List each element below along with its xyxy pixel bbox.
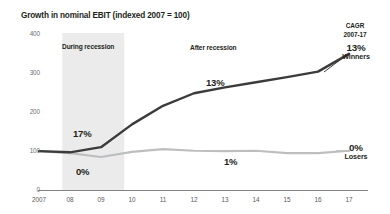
label-after-recession: After recession (190, 44, 237, 51)
y-tick-300: 300 (18, 69, 40, 76)
cagr-header-line2: 2007-17 (330, 31, 380, 38)
label-during-recession: During recession (62, 43, 114, 50)
annotation-winners-post-recession-growth: 13% (206, 77, 224, 88)
winners-series-name: Winners (330, 52, 382, 61)
x-tick-08: 08 (57, 196, 83, 203)
x-tick-10: 10 (119, 196, 145, 203)
x-tick-16: 16 (305, 196, 331, 203)
y-tick-0: 0 (18, 186, 40, 193)
x-tick-14: 14 (243, 196, 269, 203)
x-tick-13: 13 (212, 196, 238, 203)
series-endlabel-winners: 13% Winners (330, 42, 382, 61)
x-tick-12: 12 (181, 196, 207, 203)
x-tick-17: 17 (336, 196, 362, 203)
annotation-losers-post-recession-growth: 1% (224, 156, 237, 167)
series-endlabel-losers: 0% Losers (330, 142, 382, 161)
x-tick-11: 11 (150, 196, 176, 203)
y-tick-400: 400 (18, 30, 40, 37)
x-tick-2007: 2007 (26, 196, 52, 203)
annotation-losers-recession-growth: 0% (76, 166, 89, 177)
y-tick-200: 200 (18, 108, 40, 115)
y-tick-100: 100 (18, 147, 40, 154)
x-tick-09: 09 (88, 196, 114, 203)
cagr-header-line1: CAGR (330, 22, 380, 29)
losers-series-name: Losers (330, 152, 382, 161)
chart-container: Growth in nominal EBIT (indexed 2007 = 1… (0, 0, 390, 214)
annotation-winners-recession-growth: 17% (73, 128, 91, 139)
recession-shaded-band (62, 33, 124, 190)
x-tick-15: 15 (274, 196, 300, 203)
